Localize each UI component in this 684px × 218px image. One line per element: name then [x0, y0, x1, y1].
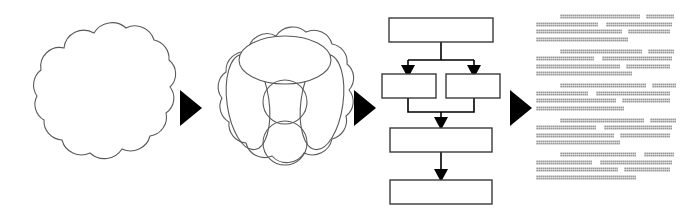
text-line	[536, 22, 676, 27]
text-line	[536, 37, 676, 42]
text-line	[536, 56, 676, 61]
text-segment	[536, 175, 636, 180]
flow-box-branch-right	[446, 74, 500, 98]
edge-left-to-join	[408, 98, 441, 112]
text-segment	[536, 56, 594, 61]
text-segment	[600, 160, 672, 165]
text-segment	[560, 14, 640, 19]
text-gap	[588, 91, 596, 96]
text-segment	[606, 22, 672, 27]
stage-3-to-stage-4-arrow	[508, 88, 534, 128]
text-segment	[596, 91, 670, 96]
text-gap	[592, 160, 600, 165]
edge-right-to-join	[441, 98, 474, 112]
text-line	[536, 83, 676, 88]
text-segment	[560, 49, 642, 54]
text-line	[536, 133, 676, 138]
text-segment	[646, 14, 674, 19]
flow-box-top	[389, 18, 493, 42]
text-segment	[536, 22, 598, 27]
text-segment	[536, 64, 620, 69]
text-line	[536, 106, 676, 111]
cluster-center-upper-circle	[263, 80, 307, 124]
text-segment	[648, 49, 674, 54]
text-segment	[652, 83, 676, 88]
text-gap	[536, 83, 560, 88]
paragraph-4	[536, 118, 676, 146]
cluster-center-lower-circle	[263, 121, 307, 165]
text-gap	[594, 56, 602, 61]
text-segment	[536, 160, 592, 165]
text-segment	[624, 167, 670, 172]
text-line	[536, 98, 676, 103]
text-segment	[644, 152, 674, 157]
text-gap	[636, 152, 644, 157]
flow-box-merge	[390, 128, 492, 152]
text-line	[536, 29, 676, 34]
text-line	[536, 91, 676, 96]
text-segment	[602, 56, 672, 61]
text-gap	[596, 125, 604, 130]
text-line	[536, 175, 676, 180]
text-segment	[536, 29, 622, 34]
right-triangle-icon	[510, 90, 532, 126]
text-segment	[536, 125, 596, 130]
process-flowchart	[382, 12, 502, 210]
text-line	[536, 64, 676, 69]
text-line	[536, 14, 676, 19]
text-segment	[622, 98, 670, 103]
text-segment	[536, 37, 628, 42]
text-line	[536, 71, 676, 76]
text-segment	[620, 133, 670, 138]
text-segment	[560, 118, 644, 123]
text-segment	[536, 140, 620, 145]
text-segment	[536, 98, 616, 103]
text-segment	[628, 29, 670, 34]
text-segment	[536, 106, 624, 111]
text-line	[536, 49, 676, 54]
text-segment	[626, 64, 670, 69]
flow-box-bottom	[390, 180, 492, 204]
paragraph-5	[536, 152, 676, 180]
text-line	[536, 167, 676, 172]
paragraph-1	[536, 14, 676, 42]
generated-text-document	[536, 14, 676, 187]
text-segment	[560, 83, 646, 88]
text-segment	[536, 71, 632, 76]
text-gap	[536, 118, 560, 123]
text-segment	[650, 118, 676, 123]
stage-2-to-stage-3-arrow	[352, 88, 378, 128]
paragraph-3	[536, 83, 676, 111]
clustered-data-cloud	[204, 12, 364, 182]
text-line	[536, 160, 676, 165]
flow-box-branch-left	[382, 74, 436, 98]
right-triangle-icon	[180, 90, 202, 126]
text-segment	[604, 125, 672, 130]
text-line	[536, 118, 676, 123]
pipeline-diagram	[0, 0, 684, 218]
text-line	[536, 140, 676, 145]
text-gap	[536, 152, 560, 157]
text-line	[536, 125, 676, 130]
text-segment	[536, 167, 618, 172]
text-gap	[536, 14, 560, 19]
text-segment	[536, 91, 588, 96]
text-segment	[536, 133, 614, 138]
stage-1-to-stage-2-arrow	[178, 88, 204, 128]
cluster-top-ellipse	[239, 36, 331, 84]
cloud-outline-path	[34, 23, 176, 159]
text-gap	[536, 49, 560, 54]
right-triangle-icon	[354, 90, 376, 126]
text-gap	[598, 22, 606, 27]
paragraph-2	[536, 49, 676, 77]
text-line	[536, 152, 676, 157]
unstructured-data-cloud	[18, 12, 178, 168]
text-segment	[560, 152, 636, 157]
